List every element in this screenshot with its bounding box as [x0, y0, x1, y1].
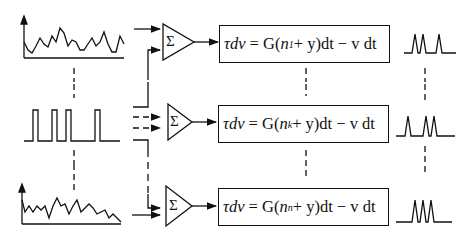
eq-sign: = [249, 197, 258, 217]
eq-rest: + y)dt − v dt [292, 114, 375, 134]
input-signal-2 [24, 110, 120, 141]
sigma-label-2: Σ [170, 113, 179, 130]
sigma-label-3: Σ [169, 197, 178, 214]
eq-g: G( [263, 34, 280, 54]
eq-lhs: τdv [223, 197, 244, 217]
eq-lhs: τdv [223, 114, 244, 134]
input-signal-1 [21, 16, 124, 58]
eq-rest: + y)dt − v dt [294, 34, 377, 54]
eq-n: n [280, 34, 288, 54]
eq-g: G( [262, 114, 279, 134]
eq-n: n [279, 197, 287, 217]
output-spikes-2 [396, 116, 455, 136]
eq-n: n [279, 114, 287, 134]
equation-box-1: τdv = G(n1 + y)dt − v dt [219, 25, 390, 63]
output-spikes-1 [404, 34, 456, 53]
sigma-label-1: Σ [166, 33, 175, 50]
eq-sign: = [250, 34, 259, 54]
equation-box-3: τdv = G(nn + y)dt − v dt [218, 188, 389, 226]
equation-box-2: τdv = G(nk + y)dt − v dt [218, 105, 389, 143]
eq-g: G( [262, 197, 279, 217]
eq-rest: + y)dt − v dt [293, 197, 376, 217]
input-signal-3 [19, 184, 121, 224]
eq-lhs: τdv [224, 34, 245, 54]
eq-sign: = [249, 114, 258, 134]
output-spikes-3 [396, 200, 452, 222]
